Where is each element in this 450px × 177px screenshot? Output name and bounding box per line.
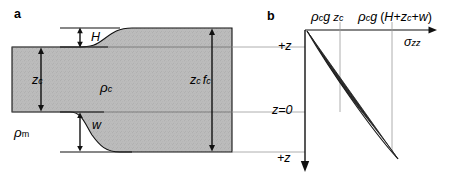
label-root-w: w [92, 119, 101, 132]
tick1-z-sub: c [339, 13, 344, 23]
label-mantle-density: ρm [14, 124, 29, 140]
tick1-rho: ρ [311, 9, 319, 24]
tick-label-rho-c-g-total: ρcg(H+zc+w) [358, 8, 432, 24]
label-crust-thickness: zc [32, 71, 43, 87]
label-rho-m-sub: m [22, 129, 30, 139]
depth-label-top-plus-z: +z [278, 40, 292, 53]
sigma-axis-arrow-head [429, 26, 438, 33]
label-rho-c-sub: c [108, 84, 113, 94]
tick2-plus2: + [411, 10, 418, 24]
label-zcfc-sub1: c [196, 76, 201, 86]
label-zc-sub: c [38, 76, 43, 86]
axis-label-sigma-zz: σzz [404, 33, 421, 49]
figure-root: a b H zc ρc ρm w zcfc ρcgzc ρcg(H+zc+w) … [0, 0, 450, 177]
stress-wedge [307, 31, 398, 159]
panel-b-letter: b [267, 10, 275, 23]
label-crust-density: ρc [100, 79, 112, 95]
tick2-plus1: + [393, 10, 400, 24]
depth-label-zero: z=0 [272, 104, 293, 117]
tick1-g: g [323, 10, 330, 24]
tick2-w: w [419, 10, 428, 24]
label-topography-H: H [91, 31, 100, 44]
sigma-symbol: σ [404, 35, 412, 49]
w-arrow-head-down [77, 146, 83, 152]
tick2-paren-close: ) [428, 10, 432, 24]
label-zcfc-sub2: c [206, 76, 211, 86]
panel-a-group [12, 28, 232, 152]
z-axis-arrow-head [301, 161, 309, 172]
depth-label-bottom-plus-z: +z [277, 152, 291, 165]
figure-svg [0, 0, 450, 177]
tick2-rho: ρ [358, 9, 366, 24]
sigma-sub-zz: zz [412, 38, 421, 48]
label-rho-m-symbol: ρ [14, 125, 22, 140]
tick-label-rho-c-g-zc: ρcgzc [311, 8, 343, 24]
label-rho-c-symbol: ρ [100, 80, 108, 95]
tick2-g: g [370, 10, 377, 24]
label-thick-crust: zcfc [190, 71, 211, 87]
panel-a-letter: a [14, 8, 21, 21]
